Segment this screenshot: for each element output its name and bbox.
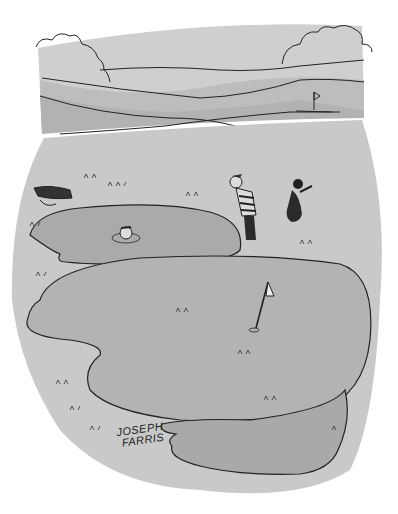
foreground-course	[12, 120, 382, 493]
cartoon-illustration	[0, 0, 398, 514]
